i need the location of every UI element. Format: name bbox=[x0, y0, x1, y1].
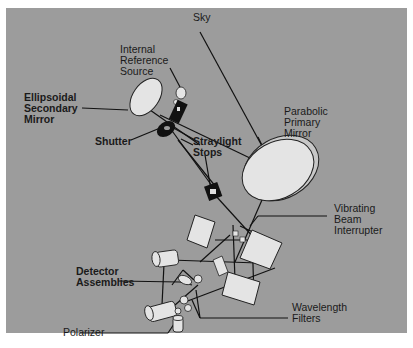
filter-panel-lower bbox=[222, 272, 260, 305]
label-straylight-stops: Straylight Stops bbox=[193, 136, 241, 158]
detector-cylinder-bottom bbox=[173, 316, 183, 333]
label-shutter: Shutter bbox=[95, 136, 132, 147]
detector-cylinder-upper bbox=[151, 250, 179, 268]
label-wavelength-filters: Wavelength Filters bbox=[292, 302, 347, 324]
label-polarizer: Polarizer bbox=[63, 327, 104, 338]
label-ellipsoidal-secondary-mirror: Ellipsoidal Secondary Mirror bbox=[24, 92, 78, 125]
detector-cylinder-lower bbox=[143, 301, 177, 323]
ellipsoidal-secondary-mirror bbox=[123, 72, 168, 121]
label-vibrating-beam-interrupter: Vibrating Beam Interrupter bbox=[334, 203, 382, 236]
filter-panel-upper-left bbox=[187, 215, 215, 248]
straylight-stop-lower bbox=[204, 182, 222, 201]
label-internal-reference-source: Internal Reference Source bbox=[120, 44, 168, 77]
label-sky: Sky bbox=[193, 12, 211, 23]
optical-layout-drawing bbox=[0, 0, 413, 348]
beam-interrupter-cube bbox=[233, 231, 238, 236]
label-detector-assemblies: Detector Assemblies bbox=[76, 266, 134, 288]
internal-reference-source bbox=[176, 87, 186, 99]
label-parabolic-primary-mirror: Parabolic Primary Mirror bbox=[284, 106, 328, 139]
